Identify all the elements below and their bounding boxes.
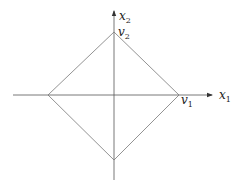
x2-axis-label: x2 [119, 9, 131, 25]
rhombus-shape [48, 32, 179, 160]
x1-axis-label: x1 [219, 88, 231, 104]
v2-label: v2 [118, 25, 130, 41]
diagram-canvas: x2 v2 v1 x1 [0, 0, 241, 184]
